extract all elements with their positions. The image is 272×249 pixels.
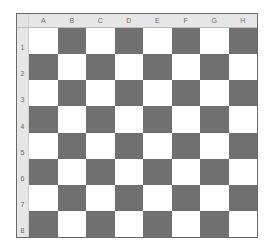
square-g8[interactable] — [200, 211, 229, 237]
row-header-7[interactable]: 7 — [17, 185, 29, 211]
corner-cell — [17, 14, 29, 28]
square-e7[interactable] — [143, 185, 172, 211]
square-f8[interactable] — [172, 211, 201, 237]
square-h6[interactable] — [229, 159, 258, 185]
square-e3[interactable] — [143, 80, 172, 106]
square-d7[interactable] — [115, 185, 144, 211]
square-d1[interactable] — [115, 28, 144, 54]
square-a8[interactable] — [29, 211, 58, 237]
row-header-4[interactable]: 4 — [17, 106, 29, 132]
square-b7[interactable] — [58, 185, 87, 211]
square-h4[interactable] — [229, 106, 258, 132]
row-header-6[interactable]: 6 — [17, 159, 29, 185]
square-a7[interactable] — [29, 185, 58, 211]
square-d3[interactable] — [115, 80, 144, 106]
square-g4[interactable] — [200, 106, 229, 132]
square-c6[interactable] — [86, 159, 115, 185]
square-b1[interactable] — [58, 28, 87, 54]
square-e1[interactable] — [143, 28, 172, 54]
square-g1[interactable] — [200, 28, 229, 54]
square-h7[interactable] — [229, 185, 258, 211]
square-h1[interactable] — [229, 28, 258, 54]
column-header-c[interactable]: C — [86, 14, 115, 28]
row-header-3[interactable]: 3 — [17, 80, 29, 106]
column-header-g[interactable]: G — [200, 14, 229, 28]
column-header-b[interactable]: B — [58, 14, 87, 28]
square-f5[interactable] — [172, 133, 201, 159]
chessboard-grid: ABCDEFGH12345678 — [16, 13, 258, 238]
square-b5[interactable] — [58, 133, 87, 159]
square-e4[interactable] — [143, 106, 172, 132]
square-h8[interactable] — [229, 211, 258, 237]
square-a6[interactable] — [29, 159, 58, 185]
square-g6[interactable] — [200, 159, 229, 185]
square-a1[interactable] — [29, 28, 58, 54]
square-b6[interactable] — [58, 159, 87, 185]
square-c2[interactable] — [86, 54, 115, 80]
row-header-8[interactable]: 8 — [17, 211, 29, 237]
square-f1[interactable] — [172, 28, 201, 54]
square-e8[interactable] — [143, 211, 172, 237]
square-h2[interactable] — [229, 54, 258, 80]
square-b8[interactable] — [58, 211, 87, 237]
square-c4[interactable] — [86, 106, 115, 132]
square-a3[interactable] — [29, 80, 58, 106]
square-d6[interactable] — [115, 159, 144, 185]
square-c5[interactable] — [86, 133, 115, 159]
square-b3[interactable] — [58, 80, 87, 106]
square-h3[interactable] — [229, 80, 258, 106]
square-g2[interactable] — [200, 54, 229, 80]
row-header-5[interactable]: 5 — [17, 133, 29, 159]
square-d2[interactable] — [115, 54, 144, 80]
square-c7[interactable] — [86, 185, 115, 211]
square-b4[interactable] — [58, 106, 87, 132]
square-e5[interactable] — [143, 133, 172, 159]
square-f2[interactable] — [172, 54, 201, 80]
square-a4[interactable] — [29, 106, 58, 132]
square-c8[interactable] — [86, 211, 115, 237]
column-header-e[interactable]: E — [143, 14, 172, 28]
column-header-h[interactable]: H — [229, 14, 258, 28]
square-d5[interactable] — [115, 133, 144, 159]
column-header-d[interactable]: D — [115, 14, 144, 28]
square-f7[interactable] — [172, 185, 201, 211]
column-header-a[interactable]: A — [29, 14, 58, 28]
square-a2[interactable] — [29, 54, 58, 80]
square-f3[interactable] — [172, 80, 201, 106]
square-d4[interactable] — [115, 106, 144, 132]
square-h5[interactable] — [229, 133, 258, 159]
row-header-1[interactable]: 1 — [17, 28, 29, 54]
column-header-f[interactable]: F — [172, 14, 201, 28]
square-f4[interactable] — [172, 106, 201, 132]
square-g3[interactable] — [200, 80, 229, 106]
square-f6[interactable] — [172, 159, 201, 185]
square-b2[interactable] — [58, 54, 87, 80]
square-e2[interactable] — [143, 54, 172, 80]
square-g7[interactable] — [200, 185, 229, 211]
square-e6[interactable] — [143, 159, 172, 185]
square-c1[interactable] — [86, 28, 115, 54]
square-g5[interactable] — [200, 133, 229, 159]
square-c3[interactable] — [86, 80, 115, 106]
square-a5[interactable] — [29, 133, 58, 159]
row-header-2[interactable]: 2 — [17, 54, 29, 80]
square-d8[interactable] — [115, 211, 144, 237]
